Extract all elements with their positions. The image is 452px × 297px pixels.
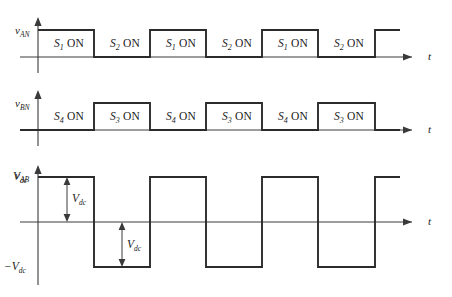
v-ab-time-axis-arrowhead [403, 218, 412, 225]
v-an-segment-3-label: S2 ON [212, 38, 262, 52]
v-an-segment-4-label: S1 ON [268, 38, 318, 52]
v-ab-positive-level-label: Vdc [13, 171, 27, 185]
v-bn-segment-1-label: S3 ON [100, 111, 150, 125]
v-an-segment-1-label: S2 ON [100, 38, 150, 52]
dimension-arrow-negative-vdc [119, 222, 126, 267]
v-bn-value-axis-arrowhead [34, 90, 41, 99]
v-an-segment-2-label: S1 ON [156, 38, 206, 52]
v-an-value-axis-arrowhead [34, 17, 41, 26]
v-ab-value-axis-arrowhead [34, 165, 41, 174]
v-bn-segment-5-label: S3 ON [324, 111, 374, 125]
v-bn-time-axis-arrowhead [403, 126, 412, 133]
v-bn-time-label: t [428, 124, 431, 135]
inverter-waveform-figure: vAN t S1 ON S2 ON S1 ON S2 ON S1 ON S2 O… [0, 0, 452, 297]
v-bn-segment-0-label: S4 ON [44, 111, 94, 125]
v-ab-dimension-label-negative: Vdc [127, 239, 141, 253]
v-bn-segment-3-label: S3 ON [212, 111, 262, 125]
plot-v-ab [20, 165, 412, 285]
v-an-time-axis-arrowhead [403, 53, 412, 60]
v-bn-segment-2-label: S4 ON [156, 111, 206, 125]
v-ab-negative-level-label: −Vdc [4, 261, 26, 275]
v-ab-dimension-label-positive: Vdc [72, 193, 86, 207]
v-an-segment-5-label: S2 ON [324, 38, 374, 52]
v-an-axis-label: vAN [15, 25, 29, 39]
v-bn-axis-label: vBN [15, 98, 29, 112]
dimension-arrow-positive-vdc [64, 177, 71, 222]
v-an-segment-0-label: S1 ON [44, 38, 94, 52]
v-bn-segment-4-label: S4 ON [268, 111, 318, 125]
v-an-time-label: t [428, 51, 431, 62]
v-ab-time-label: t [428, 216, 431, 227]
